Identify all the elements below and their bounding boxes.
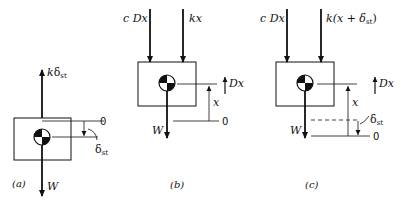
panel-a: kδst W 0 δst (a)	[12, 66, 108, 196]
damping-force-label: c Dx	[260, 12, 285, 25]
velocity-label: Dx	[228, 77, 245, 90]
caption-b: (b)	[170, 179, 184, 190]
spring-force-label: k(x + δst)	[326, 12, 377, 26]
center-of-mass-icon	[34, 129, 50, 145]
weight-label: W	[152, 124, 165, 137]
center-of-mass-icon	[297, 75, 313, 91]
caption-c: (c)	[305, 179, 319, 190]
panel-b: c Dx kx W x 0 Dx (b)	[123, 9, 245, 190]
damping-force-label: c Dx	[123, 12, 148, 25]
weight-label: W	[47, 180, 60, 193]
delta-st-label: δst	[370, 113, 383, 127]
spring-force-label: kδst	[47, 66, 67, 80]
reference-zero-label: 0	[222, 116, 228, 127]
velocity-label: Dx	[378, 77, 395, 90]
displacement-label: x	[352, 96, 359, 109]
reference-zero-label: 0	[100, 116, 106, 127]
weight-label: W	[290, 124, 303, 137]
caption-a: (a)	[12, 178, 26, 189]
spring-force-label: kx	[189, 12, 203, 25]
free-body-diagrams: kδst W 0 δst (a) c Dx kx W	[0, 0, 403, 201]
center-of-mass-icon	[159, 75, 175, 91]
panel-c: c Dx k(x + δst) W x δst 0 Dx (c)	[260, 9, 395, 190]
delta-leader	[88, 129, 97, 140]
displacement-label: x	[213, 96, 220, 109]
delta-st-label: δst	[95, 143, 108, 157]
reference-zero-label: 0	[373, 131, 379, 142]
delta-leader	[360, 116, 369, 124]
